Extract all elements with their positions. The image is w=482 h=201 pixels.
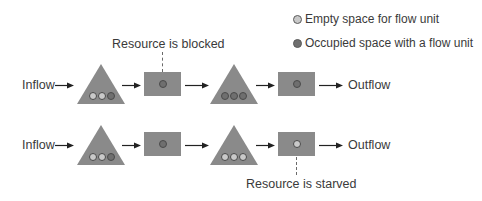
legend-occupied-label: Occupied space with a flow unit [305, 36, 473, 50]
flow-unit-icon [107, 153, 115, 161]
resource-box [278, 72, 315, 96]
flow-unit-icon [230, 92, 238, 100]
flow-unit-icon [221, 153, 229, 161]
inflow-label: Inflow [22, 78, 55, 92]
arrow-icon [122, 82, 141, 89]
inflow-label: Inflow [22, 138, 55, 152]
arrow-icon [319, 142, 343, 149]
outflow-label: Outflow [348, 78, 390, 92]
arrow-icon [122, 142, 141, 149]
arrow-icon [256, 82, 275, 89]
legend-empty-icon [293, 15, 302, 24]
arrow-icon [55, 142, 74, 149]
arrow-icon [185, 142, 209, 149]
flow-unit-icon [98, 92, 106, 100]
flow-unit-icon [107, 92, 115, 100]
blocked-dashed-line [162, 52, 163, 72]
flow-unit-icon [89, 92, 97, 100]
starved-dashed-line [296, 157, 297, 175]
annotation-starved: Resource is starved [246, 177, 356, 191]
legend-occupied-icon [293, 39, 302, 48]
arrow-icon [256, 142, 275, 149]
arrow-icon [55, 82, 74, 89]
flow-unit-icon [159, 140, 167, 148]
outflow-label: Outflow [348, 138, 390, 152]
buffer-triangle [77, 64, 125, 104]
buffer-triangle [210, 125, 258, 165]
buffer-triangle [210, 64, 258, 104]
buffer-triangle [77, 125, 125, 165]
flow-unit-icon [159, 80, 167, 88]
legend-empty-label: Empty space for flow unit [305, 12, 439, 26]
flow-unit-icon [239, 92, 247, 100]
flow-unit-icon [230, 153, 238, 161]
arrow-icon [319, 82, 343, 89]
resource-box-starved [278, 132, 315, 156]
flow-unit-icon [98, 153, 106, 161]
resource-box [144, 132, 181, 156]
annotation-blocked: Resource is blocked [112, 37, 225, 51]
flow-unit-icon [293, 80, 301, 88]
flow-unit-icon [221, 92, 229, 100]
arrow-icon [185, 82, 209, 89]
flow-unit-icon [239, 153, 247, 161]
resource-box-blocked [144, 72, 181, 96]
flow-unit-icon [293, 140, 301, 148]
flow-unit-icon [89, 153, 97, 161]
